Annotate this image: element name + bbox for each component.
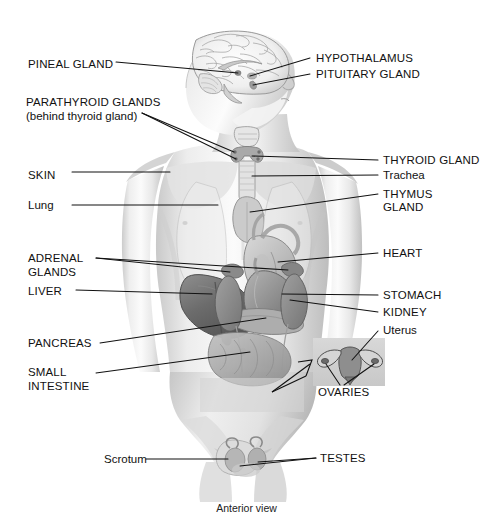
uterus-ovaries-inset	[313, 338, 385, 386]
label-pineal-gland: PINEAL GLAND	[28, 58, 113, 71]
label-uterus: Uterus	[383, 324, 417, 337]
label-adrenal-glands-2: GLANDS	[28, 266, 76, 279]
label-trachea: Trachea	[383, 169, 425, 182]
label-scrotum: Scrotum	[104, 453, 147, 466]
label-pancreas: PANCREAS	[28, 337, 92, 350]
label-adrenal-glands-1: ADRENAL	[28, 252, 83, 265]
figure-caption: Anterior view	[0, 502, 493, 514]
label-skin: SKIN	[28, 169, 55, 182]
trachea-structure	[239, 161, 255, 202]
label-thymus-gland-1: THYMUS	[383, 188, 432, 201]
label-stomach: STOMACH	[383, 289, 441, 302]
label-thyroid-gland: THYROID GLAND	[383, 154, 480, 167]
label-lung: Lung	[28, 199, 54, 212]
label-small-intestine-2: INTESTINE	[28, 380, 89, 393]
ovary-right	[371, 358, 378, 363]
label-pituitary-gland: PITUITARY GLAND	[316, 68, 420, 81]
label-parathyroid-glands: PARATHYROID GLANDS	[26, 96, 161, 109]
label-liver: LIVER	[28, 285, 62, 298]
label-heart: HEART	[383, 247, 423, 260]
anatomical-figure: PINEAL GLAND PARATHYROID GLANDS (behind …	[0, 0, 493, 529]
label-testes: TESTES	[320, 452, 366, 465]
label-hypothalamus: HYPOTHALAMUS	[316, 52, 413, 65]
label-thymus-gland-2: GLAND	[383, 201, 423, 214]
ovary-left	[321, 358, 328, 363]
label-small-intestine-1: SMALL	[28, 366, 66, 379]
label-kidney: KIDNEY	[383, 306, 427, 319]
label-parathyroid-note: (behind thyroid gland)	[26, 110, 137, 123]
hypothalamus-structure	[248, 73, 257, 79]
label-ovaries: OVARIES	[318, 386, 369, 399]
